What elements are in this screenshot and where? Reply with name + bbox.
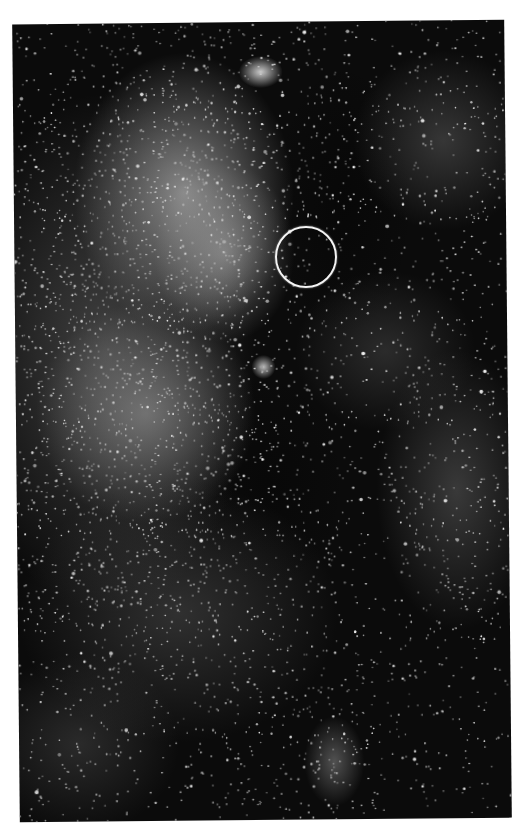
page [0,0,524,834]
star-field [12,20,512,823]
highlight-circle [275,226,337,288]
milky-way-photo [12,20,512,823]
